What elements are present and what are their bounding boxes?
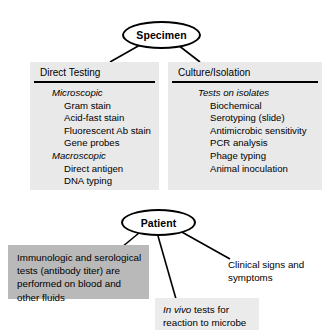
diagram-canvas: Specimen Direct Testing Microscopic Gram…	[0, 0, 331, 332]
connector-specimen-to-direct	[110, 45, 140, 62]
list-item: Antimicrobic sensitivity	[168, 125, 322, 138]
list-item: Phage typing	[168, 150, 322, 163]
node-patient-label: Patient	[141, 217, 177, 229]
list-item: Gene probes	[30, 137, 159, 150]
panel-direct-testing-body: Microscopic Gram stain Acid-fast stain F…	[30, 83, 159, 192]
list-item: PCR analysis	[168, 137, 322, 150]
list-item: Serotyping (slide)	[168, 112, 322, 125]
panel-culture-isolation-body: Tests on isolates Biochemical Serotyping…	[168, 83, 322, 179]
group-heading-macroscopic: Macroscopic	[30, 150, 159, 163]
node-specimen-label: Specimen	[136, 29, 186, 41]
list-item: Acid-fast stain	[30, 112, 159, 125]
group-heading-microscopic: Microscopic	[30, 87, 159, 100]
note-in-vivo-tests: In vivo tests for reaction to microbe	[155, 298, 259, 330]
panel-culture-isolation: Culture/Isolation Tests on isolates Bioc…	[168, 62, 322, 190]
node-specimen[interactable]: Specimen	[122, 21, 201, 49]
group-heading-tests-on-isolates: Tests on isolates	[168, 87, 322, 100]
panel-culture-isolation-title: Culture/Isolation	[172, 62, 318, 83]
note-clinical-signs: Clinical signs and symptoms	[228, 258, 326, 290]
connector-specimen-to-culture	[178, 45, 200, 62]
connector-patient-to-invivo	[158, 236, 176, 299]
list-item: Animal inoculation	[168, 163, 322, 176]
list-item: DNA typing	[30, 175, 159, 188]
list-item: Biochemical	[168, 100, 322, 113]
panel-direct-testing-title: Direct Testing	[34, 62, 155, 83]
note-immunologic-serological: Immunologic and serological tests (antib…	[8, 245, 149, 299]
list-item: Fluorescent Ab stain	[30, 125, 159, 138]
connector-patient-to-clinical	[180, 231, 230, 259]
node-patient[interactable]: Patient	[121, 209, 196, 236]
list-item: Direct antigen	[30, 163, 159, 176]
list-item: Gram stain	[30, 100, 159, 113]
panel-direct-testing: Direct Testing Microscopic Gram stain Ac…	[30, 62, 159, 190]
note-in-vivo-italic: In vivo	[163, 304, 191, 315]
